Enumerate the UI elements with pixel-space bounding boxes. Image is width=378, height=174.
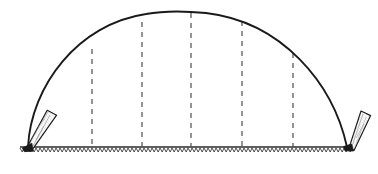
left-ground-stake <box>23 110 57 151</box>
ground-group <box>20 147 356 152</box>
dashed-reference-group <box>92 13 293 147</box>
right-stake-tip <box>344 144 354 151</box>
figure-container <box>0 0 378 174</box>
right-ground-stake <box>344 111 371 151</box>
arched-structure-diagram <box>0 0 378 174</box>
arched-member <box>28 12 347 147</box>
ground-hatching <box>20 148 352 152</box>
